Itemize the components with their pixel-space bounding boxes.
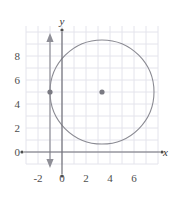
x-axis-left-dot-icon xyxy=(20,150,23,153)
y-axis-label: y xyxy=(59,15,65,27)
x-axis-label: x xyxy=(162,146,168,158)
y-tick-8: 8 xyxy=(15,50,21,62)
point-tangent xyxy=(47,89,52,94)
x-tick-0: 0 xyxy=(59,172,65,184)
y-tick-2: 2 xyxy=(15,122,21,134)
x-tick-2: 2 xyxy=(83,172,89,184)
tangent-vertical-line xyxy=(46,33,53,168)
graph-figure: x y 0 2 4 6 8 -2 0 2 4 6 xyxy=(0,0,170,200)
point-circle-center xyxy=(99,89,104,94)
arrow-head-up-icon xyxy=(46,33,53,42)
x-tick-4: 4 xyxy=(107,172,113,184)
y-tick-4: 4 xyxy=(15,98,21,110)
coordinate-plane-svg: x y 0 2 4 6 8 -2 0 2 4 6 xyxy=(0,0,170,200)
y-axis-top-dot-icon xyxy=(60,28,63,31)
x-tick-neg2: -2 xyxy=(33,172,42,184)
y-axis xyxy=(60,28,63,177)
y-tick-0: 0 xyxy=(15,146,21,158)
x-axis xyxy=(20,150,163,153)
x-tick-6: 6 xyxy=(131,172,137,184)
y-tick-6: 6 xyxy=(15,74,21,86)
